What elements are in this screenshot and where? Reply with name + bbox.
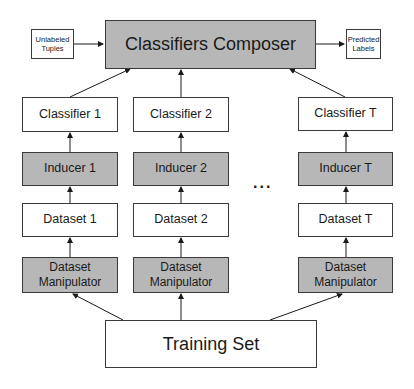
predicted-labels-line2: Labels — [352, 44, 374, 53]
dataset-2-label: Dataset 2 — [154, 212, 208, 228]
classifier-2-box: Classifier 2 — [133, 97, 229, 132]
predicted-labels-box: Predicted Labels — [346, 29, 381, 59]
unlabeled-tuples-box: Unlabeled Tuples — [31, 29, 74, 59]
dataset-t-label: Dataset T — [319, 212, 373, 228]
dataset-manipulator-t-line2: Manipulator — [314, 275, 377, 290]
classifiers-composer-box: Classifiers Composer — [105, 20, 316, 69]
dataset-manipulator-1-line1: Dataset — [49, 260, 90, 275]
dataset-manipulator-t-box: Dataset Manipulator — [298, 257, 393, 293]
ensemble-diagram: Unlabeled Tuples Classifiers Composer Pr… — [0, 0, 414, 389]
predicted-labels-line1: Predicted — [348, 35, 380, 44]
classifier-1-box: Classifier 1 — [22, 97, 118, 132]
dataset-manipulator-2-line1: Dataset — [160, 260, 201, 275]
dataset-manipulator-2-line2: Manipulator — [150, 275, 213, 290]
inducer-t-label: Inducer T — [319, 161, 372, 177]
dataset-1-box: Dataset 1 — [22, 203, 118, 237]
inducer-1-label: Inducer 1 — [44, 161, 96, 177]
classifier-2-label: Classifier 2 — [150, 107, 212, 123]
dataset-2-box: Dataset 2 — [133, 203, 229, 237]
unlabeled-tuples-line2: Tuples — [41, 44, 63, 53]
inducer-1-box: Inducer 1 — [22, 152, 118, 186]
unlabeled-tuples-line1: Unlabeled — [36, 35, 70, 44]
inducer-2-box: Inducer 2 — [133, 152, 229, 186]
inducer-2-label: Inducer 2 — [155, 161, 207, 177]
dataset-1-label: Dataset 1 — [43, 212, 97, 228]
training-set-label: Training Set — [163, 333, 259, 356]
dataset-t-box: Dataset T — [298, 203, 393, 237]
training-set-box: Training Set — [105, 320, 317, 368]
dataset-manipulator-2-box: Dataset Manipulator — [133, 257, 229, 293]
dataset-manipulator-t-line1: Dataset — [325, 260, 366, 275]
classifier-t-label: Classifier T — [314, 106, 376, 122]
classifiers-composer-label: Classifiers Composer — [125, 33, 296, 56]
dataset-manipulator-1-box: Dataset Manipulator — [22, 257, 118, 293]
classifier-1-label: Classifier 1 — [39, 107, 101, 123]
dataset-manipulator-1-line2: Manipulator — [39, 275, 102, 290]
ellipsis: ... — [253, 174, 272, 192]
inducer-t-box: Inducer T — [298, 152, 393, 186]
classifier-t-box: Classifier T — [298, 97, 393, 131]
